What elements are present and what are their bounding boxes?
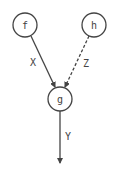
edge-label-z: Z xyxy=(83,58,89,69)
node-f: f xyxy=(13,13,37,37)
node-label-h: h xyxy=(91,20,97,31)
node-g: g xyxy=(48,87,72,111)
node-h: h xyxy=(82,13,106,37)
edge-label-y: Y xyxy=(65,131,71,142)
graph-diagram: X Z Y f h g xyxy=(0,0,113,171)
node-label-f: f xyxy=(22,20,28,31)
node-label-g: g xyxy=(57,94,63,105)
edge-label-x: X xyxy=(30,57,36,68)
